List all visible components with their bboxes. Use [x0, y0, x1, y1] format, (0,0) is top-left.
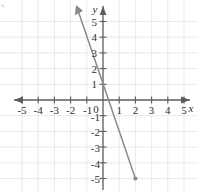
coordinate-plane: -5 -4 -3 -2 -1 1 2 3 4 5 5 4 3 2 1 -1 -2…	[0, 0, 198, 192]
x-tick-label--4: -4	[34, 104, 44, 116]
x-tick-labels: -5 -4 -3 -2 -1 1 2 3 4 5	[17, 104, 187, 116]
x-tick-label-2: 2	[133, 104, 139, 116]
y-tick-label-1: 1	[92, 78, 98, 90]
x-tick-label-3: 3	[149, 104, 155, 116]
plotted-line-series	[75, 5, 138, 181]
y-tick-label--5: -5	[91, 173, 101, 185]
plotted-line	[78, 9, 136, 179]
y-axis-label: y	[92, 3, 98, 15]
graph-figure: a.	[0, 0, 198, 192]
x-tick-label--5: -5	[17, 104, 27, 116]
x-tick-label-5: 5	[181, 104, 187, 116]
line-endpoint-dot	[133, 176, 137, 180]
y-tick-label--3: -3	[91, 142, 101, 154]
figure-corner-label: a.	[1, 2, 5, 8]
y-tick-label-2: 2	[92, 63, 98, 75]
y-axis-arrow-up	[100, 6, 107, 15]
y-tick-label-5: 5	[92, 16, 98, 28]
origin-label: 0	[93, 103, 99, 115]
x-tick-label--2: -2	[66, 104, 75, 116]
y-tick-label-3: 3	[92, 47, 98, 59]
y-tick-label-4: 4	[92, 31, 98, 43]
x-tick-label-1: 1	[116, 104, 122, 116]
x-tick-label-4: 4	[165, 104, 171, 116]
x-tick-label--3: -3	[50, 104, 60, 116]
axis-arrowheads	[14, 6, 190, 103]
x-axis-label: x	[188, 102, 194, 114]
y-tick-label--4: -4	[91, 158, 101, 170]
y-tick-label--2: -2	[91, 126, 100, 138]
